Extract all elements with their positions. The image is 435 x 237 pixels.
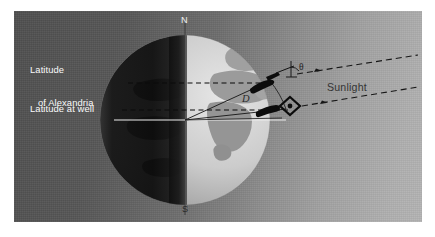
label-north-pole: N — [181, 15, 188, 26]
arc-distance-D — [270, 81, 286, 109]
theta-arc — [291, 67, 299, 71]
land-scandinavia — [236, 40, 258, 53]
label-latitude-alexandria: Latitude of Alexandria — [30, 42, 94, 131]
angle-theta-marker — [286, 61, 299, 77]
label-angle-theta: θ — [299, 61, 304, 72]
label-latitude-well: Latitude at well — [30, 103, 94, 114]
label-sunlight: Sunlight — [327, 81, 367, 94]
land-europe — [225, 47, 265, 71]
eratosthenes-diagram-figure: Latitude of Alexandria Latitude at well … — [0, 0, 435, 237]
label-latitude-alexandria-line1: Latitude — [30, 64, 94, 75]
label-south-pole: S — [182, 204, 188, 215]
label-distance-D: D — [242, 93, 250, 105]
diagram-panel: Latitude of Alexandria Latitude at well … — [14, 11, 422, 222]
